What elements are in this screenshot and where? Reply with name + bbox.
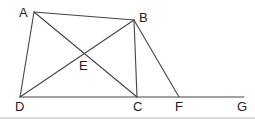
- geometry-diagram: A B E D C F G: [0, 0, 255, 119]
- label-e: E: [79, 58, 88, 73]
- segment-ac: [34, 12, 137, 97]
- segment-ad: [20, 12, 34, 97]
- label-b: B: [139, 10, 148, 25]
- segment-bf: [134, 20, 179, 97]
- label-f: F: [175, 99, 183, 114]
- segment-bd: [20, 20, 134, 97]
- label-d: D: [15, 99, 24, 114]
- label-a: A: [19, 5, 28, 20]
- segment-bc: [134, 20, 137, 97]
- segment-ab: [34, 12, 134, 20]
- label-c: C: [133, 99, 142, 114]
- label-g: G: [237, 99, 247, 114]
